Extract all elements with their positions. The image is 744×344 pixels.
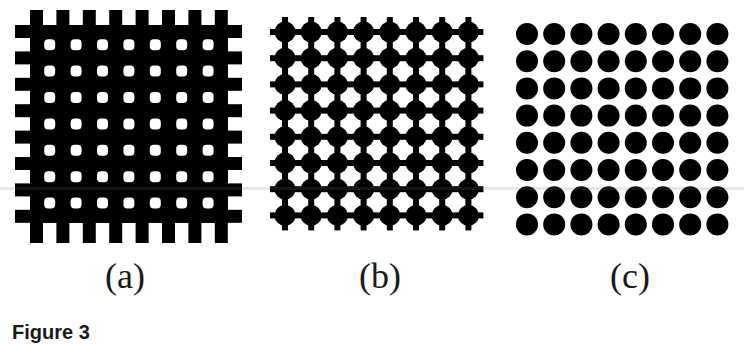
connected-dots-image bbox=[250, 0, 500, 250]
panel-c-isolated-dots bbox=[500, 0, 744, 250]
panel-b-label: (b) bbox=[359, 254, 401, 298]
panel-a-label: (a) bbox=[105, 254, 145, 298]
square-lattice-image bbox=[0, 0, 250, 250]
panel-c-label: (c) bbox=[610, 254, 650, 298]
figure-caption: Figure 3 bbox=[12, 320, 90, 344]
scan-artifact-line bbox=[0, 187, 744, 190]
panel-a-lattice-with-holes bbox=[0, 0, 250, 250]
panel-b-connected-dots bbox=[250, 0, 500, 250]
isolated-dots-image bbox=[500, 0, 744, 250]
